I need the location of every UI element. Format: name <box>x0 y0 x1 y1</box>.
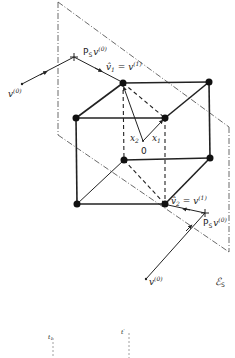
label-origin: 0 <box>141 146 147 156</box>
v0-top-point <box>21 83 23 85</box>
label-vhat1: v̂1 = v(1) <box>106 60 142 73</box>
bottom-markers <box>53 333 129 358</box>
iteration-path-bottom <box>146 205 205 279</box>
diagram-canvas: v(0) PSv(0) v̂1 = v(1) x2 x1 0 v̂2 = v(1… <box>0 0 235 358</box>
label-x2: x2 <box>130 133 139 144</box>
origin-point <box>142 140 144 142</box>
label-t1: t1 <box>48 333 53 341</box>
v0-bottom-point <box>145 278 147 280</box>
label-ps-v0-bottom: PSv(0) <box>203 216 228 229</box>
label-ps-v0-top: PSv(0) <box>83 45 108 58</box>
cube-edges <box>76 82 210 204</box>
label-vhat2: v̂2 = v(1) <box>171 194 207 207</box>
label-x1: x1 <box>152 133 161 144</box>
label-subspace: ℰS <box>215 276 225 288</box>
label-t2: t' <box>121 328 125 335</box>
label-v0-bottom: v(0) <box>149 275 163 287</box>
ps-top-cross-icon <box>70 53 78 61</box>
label-v0-top: v(0) <box>8 87 22 99</box>
